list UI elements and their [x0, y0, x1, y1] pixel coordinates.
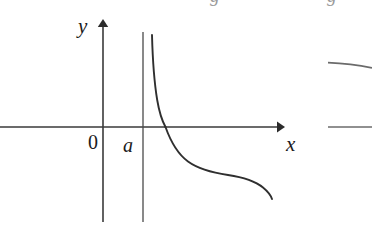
figure-canvas: y x 0 a g g [0, 0, 372, 232]
asymptote-label-a: a [123, 135, 133, 155]
y-axis [98, 19, 108, 222]
top-edge-glyph-right: g [327, 0, 337, 5]
graph-svg [0, 0, 372, 232]
y-axis-label: y [78, 16, 87, 37]
x-axis-label: x [286, 134, 295, 155]
curve-upper-branch [152, 35, 166, 127]
origin-label: 0 [88, 132, 98, 152]
top-edge-glyph-left: g [210, 0, 220, 5]
curve-lower-branch [166, 127, 273, 199]
y-axis-arrow-icon [98, 19, 108, 27]
x-axis-arrow-icon [277, 122, 285, 133]
neighbor-curve-fragment [328, 63, 372, 68]
